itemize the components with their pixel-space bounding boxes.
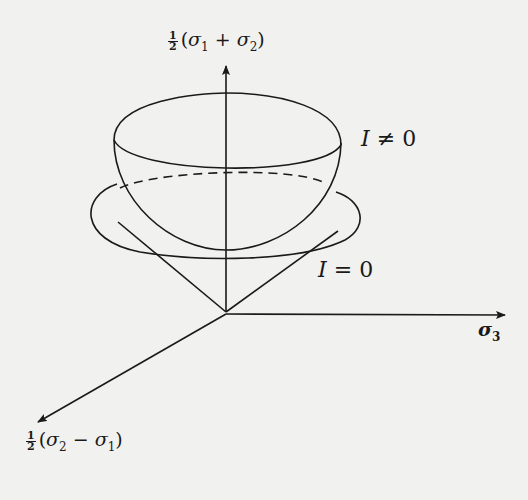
- fraction-half: 12: [168, 31, 178, 52]
- hemisphere-rim-back: [114, 93, 341, 145]
- cone-label: I = 0: [318, 257, 373, 282]
- hemisphere-bowl: [114, 140, 341, 250]
- sigma3-axis-label: σ3: [478, 318, 500, 344]
- hidden-dashed-curve: [120, 172, 325, 188]
- diagonal-axis-label: 12(σ2 − σ1): [26, 428, 123, 454]
- vertical-axis-label: 12(σ1 + σ2): [168, 28, 265, 54]
- diagram-canvas: [0, 0, 528, 500]
- fraction-half: 12: [26, 431, 36, 452]
- hemisphere-rim-front: [114, 140, 341, 168]
- sigma3-axis: [226, 314, 505, 315]
- diagonal-axis: [38, 314, 226, 422]
- hemisphere-label: I ≠ 0: [361, 126, 416, 151]
